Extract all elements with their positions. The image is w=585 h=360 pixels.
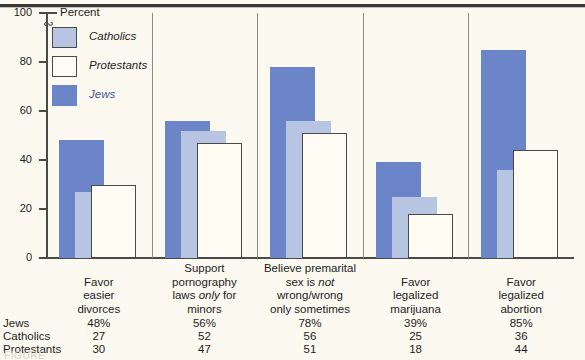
y-tick-20 <box>39 208 46 210</box>
y-tick-100 <box>39 12 46 14</box>
table-cell-protestants-5: 44 <box>468 343 574 356</box>
bar-protestants-group-3 <box>302 133 347 258</box>
y-tick-0 <box>39 257 46 259</box>
table-cell-protestants-1: 30 <box>46 343 152 356</box>
y-tick-label-80: 80 <box>2 56 32 67</box>
table-cell-jews-5: 85% <box>468 317 574 330</box>
table-cell-protestants-4: 18 <box>363 343 469 356</box>
table-cell-catholics-5: 36 <box>468 330 574 343</box>
bar-protestants-group-1 <box>91 185 136 259</box>
table-cell-protestants-2: 47 <box>152 343 258 356</box>
bar-protestants-group-2 <box>197 143 242 258</box>
y-tick-60 <box>39 110 46 112</box>
category-label-4: Favorlegalizedmarijuana <box>357 276 475 317</box>
y-tick-80 <box>39 61 46 63</box>
table-cell-catholics-4: 25 <box>363 330 469 343</box>
category-label-3: Believe premaritalsex is notwrong/wrongo… <box>251 262 369 316</box>
table-row-label-catholics: Catholics <box>3 330 50 343</box>
table-cell-jews-3: 78% <box>257 317 363 330</box>
table-cell-protestants-3: 51 <box>257 343 363 356</box>
category-label-5: Favorlegalizedabortion <box>462 276 580 317</box>
table-cell-catholics-2: 52 <box>152 330 258 343</box>
category-label-2: Supportpornographylaws only forminors <box>146 262 264 316</box>
y-tick-label-20: 20 <box>2 203 32 214</box>
table-cell-catholics-3: 56 <box>257 330 363 343</box>
table-cell-jews-2: 56% <box>152 317 258 330</box>
category-label-1: Favoreasierdivorces <box>40 276 158 317</box>
table-row-label-jews: Jews <box>3 317 29 330</box>
y-tick-label-0: 0 <box>2 252 32 263</box>
plot-area <box>46 13 574 258</box>
figure-caption: FIGURE <box>4 350 45 360</box>
bar-protestants-group-4 <box>408 214 453 258</box>
table-cell-jews-1: 48% <box>46 317 152 330</box>
y-tick-label-100: 100 <box>2 7 32 18</box>
figure-root: ∾ Percent 100806040200 Catholics Protest… <box>0 0 585 360</box>
y-tick-label-60: 60 <box>2 105 32 116</box>
y-tick-40 <box>39 159 46 161</box>
table-cell-jews-4: 39% <box>363 317 469 330</box>
bar-protestants-group-5 <box>513 150 558 258</box>
y-tick-label-40: 40 <box>2 154 32 165</box>
table-cell-catholics-1: 27 <box>46 330 152 343</box>
